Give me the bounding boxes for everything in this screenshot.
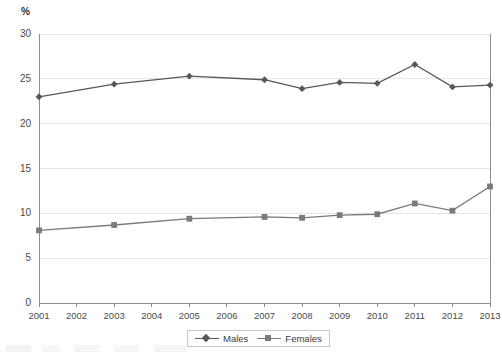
x-tick-label: 2013 [470, 310, 502, 321]
data-series-layer [36, 61, 494, 233]
data-point-males [487, 82, 494, 89]
cropped-footnote-artifact [6, 345, 186, 352]
y-tick-label: 15 [5, 163, 31, 174]
legend-item-males: Males [195, 333, 248, 344]
data-point-females [299, 215, 305, 221]
plot-area [0, 0, 502, 356]
x-tick-label: 2010 [357, 310, 397, 321]
x-tick-marks [39, 303, 490, 307]
x-tick-label: 2007 [245, 310, 285, 321]
y-tick-label: 5 [5, 252, 31, 263]
x-tick-label: 2012 [432, 310, 472, 321]
x-tick-label: 2011 [395, 310, 435, 321]
x-tick-label: 2005 [169, 310, 209, 321]
x-tick-label: 2008 [282, 310, 322, 321]
legend-label-females: Females [285, 333, 321, 344]
data-point-males [411, 61, 418, 68]
data-point-males [449, 84, 456, 91]
y-tick-label: 0 [5, 297, 31, 308]
y-tick-label: 30 [5, 28, 31, 39]
gridlines [39, 34, 490, 258]
data-point-females [374, 211, 380, 217]
line-chart: % 051015202530 2001200220032004200520062… [0, 0, 502, 356]
chart-legend: Males Females [187, 330, 330, 347]
data-point-males [111, 81, 118, 88]
data-point-males [299, 85, 306, 92]
x-tick-label: 2004 [132, 310, 172, 321]
data-point-males [374, 80, 381, 87]
legend-item-females: Females [257, 333, 321, 344]
data-point-females [412, 201, 418, 207]
legend-label-males: Males [223, 333, 248, 344]
data-point-females [36, 227, 42, 233]
x-tick-label: 2009 [320, 310, 360, 321]
x-tick-label: 2002 [57, 310, 97, 321]
data-point-males [336, 79, 343, 86]
data-point-females [487, 184, 493, 190]
y-tick-label: 20 [5, 118, 31, 129]
data-point-females [111, 222, 117, 228]
y-tick-label: 25 [5, 73, 31, 84]
data-point-males [36, 93, 43, 100]
x-tick-label: 2001 [19, 310, 59, 321]
data-point-females [186, 216, 192, 222]
data-point-males [261, 76, 268, 83]
data-point-females [450, 208, 456, 214]
x-tick-label: 2006 [207, 310, 247, 321]
data-point-females [262, 214, 268, 220]
legend-marker-females [257, 334, 281, 343]
y-tick-label: 10 [5, 207, 31, 218]
legend-marker-males [195, 334, 219, 343]
x-tick-label: 2003 [94, 310, 134, 321]
series-line-females [39, 186, 490, 230]
data-point-females [337, 212, 343, 218]
